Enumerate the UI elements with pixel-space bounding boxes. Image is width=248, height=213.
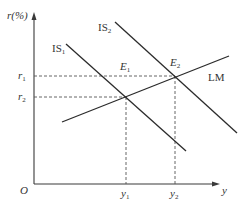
x-axis-arrow-icon: [212, 182, 220, 187]
y-axis-arrow-icon: [32, 12, 37, 20]
r1-label: r1: [18, 69, 26, 83]
origin-label: O: [20, 184, 28, 196]
e1-label: E1: [119, 60, 131, 74]
is1-label: IS1: [52, 42, 66, 56]
lm-curve: [62, 56, 229, 122]
e2-label: E2: [169, 56, 181, 70]
y-axis-label: r(%): [7, 9, 28, 22]
x-axis-label: y: [221, 184, 227, 196]
y1-label: y1: [120, 187, 130, 201]
r2-label: r2: [18, 90, 26, 104]
lm-label: LM: [208, 71, 225, 83]
y2-label: y2: [169, 187, 179, 201]
is2-label: IS2: [98, 21, 112, 35]
is-lm-diagram: r(%) O y r1 r2 y1 y2 IS1 IS2 LM E1 E2: [0, 0, 248, 213]
